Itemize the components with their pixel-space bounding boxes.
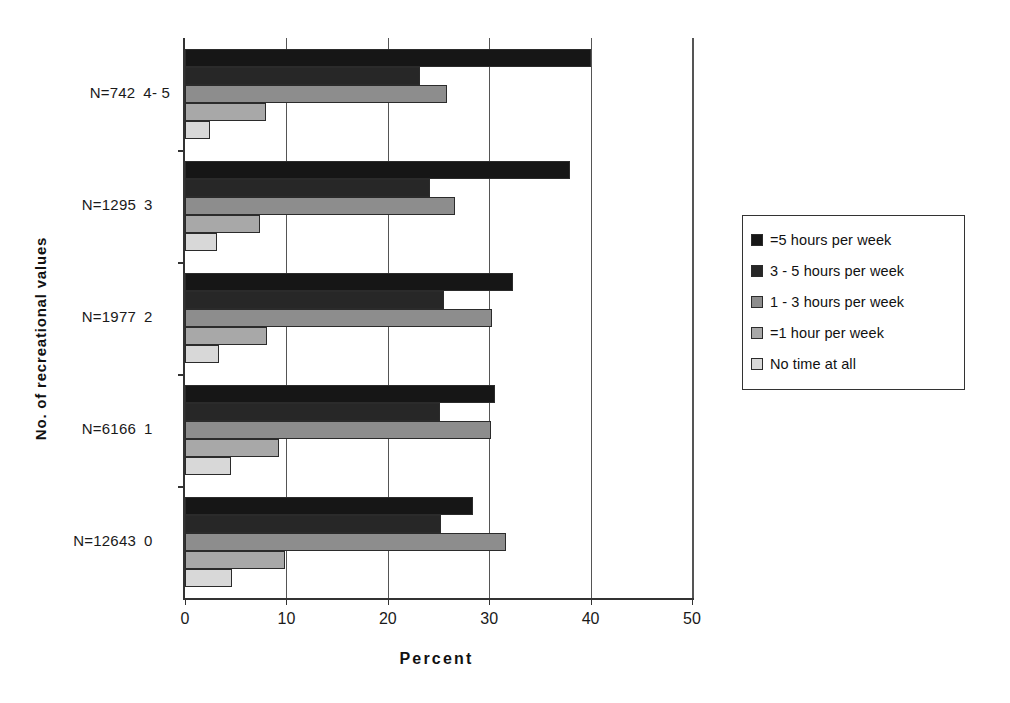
bar <box>185 385 495 403</box>
legend-item: =5 hours per week <box>751 224 958 255</box>
legend-label: =1 hour per week <box>770 325 884 341</box>
y-axis-category-label: N=126430 <box>0 532 170 549</box>
bar <box>185 215 260 233</box>
x-axis-tick-label: 0 <box>155 610 215 628</box>
y-axis-category-label: N=7424- 5 <box>0 84 170 101</box>
bar <box>185 439 279 457</box>
y-axis-category-label: N=12953 <box>0 196 170 213</box>
legend-item: 3 - 5 hours per week <box>751 255 958 286</box>
bar <box>185 569 232 587</box>
y-axis-tick <box>178 262 185 264</box>
bar <box>185 49 591 67</box>
chart-legend: =5 hours per week3 - 5 hours per week1 -… <box>742 215 965 390</box>
legend-swatch-icon <box>751 327 763 339</box>
bar <box>185 161 570 179</box>
bar <box>185 457 231 475</box>
category-sample-size: N=6166 <box>82 420 136 437</box>
x-axis-tick-label: 30 <box>459 610 519 628</box>
legend-swatch-icon <box>751 358 763 370</box>
bar <box>185 179 430 197</box>
y-axis-category-label: N=61661 <box>0 420 170 437</box>
legend-label: No time at all <box>770 356 856 372</box>
bar <box>185 551 285 569</box>
category-sample-size: N=742 <box>90 84 136 101</box>
y-axis-tick <box>178 150 185 152</box>
legend-label: =5 hours per week <box>770 232 891 248</box>
legend-swatch-icon <box>751 296 763 308</box>
bar <box>185 497 473 515</box>
bar <box>185 345 219 363</box>
y-axis-category-label: N=19772 <box>0 308 170 325</box>
bar <box>185 273 513 291</box>
bar-chart-figure: No. of recreational values N=126430N=616… <box>0 0 1010 703</box>
bar <box>185 121 210 139</box>
bar <box>185 515 441 533</box>
bar-group <box>185 497 692 587</box>
y-axis-tick <box>178 374 185 376</box>
legend-item: 1 - 3 hours per week <box>751 286 958 317</box>
bar-group <box>185 385 692 475</box>
bar <box>185 327 267 345</box>
bar <box>185 85 447 103</box>
category-value: 2 <box>144 308 170 325</box>
x-axis-line <box>183 598 694 600</box>
category-sample-size: N=12643 <box>73 532 136 549</box>
category-sample-size: N=1977 <box>82 308 136 325</box>
x-axis-tick-label: 50 <box>662 610 722 628</box>
category-value: 0 <box>144 532 170 549</box>
legend-item: No time at all <box>751 348 958 379</box>
bar <box>185 291 444 309</box>
y-axis-category-labels: N=126430N=61661N=19772N=12953N=7424- 5 <box>0 38 178 598</box>
x-axis-tick-label: 40 <box>561 610 621 628</box>
legend-label: 1 - 3 hours per week <box>770 294 904 310</box>
bar <box>185 403 440 421</box>
category-value: 1 <box>144 420 170 437</box>
bar <box>185 197 455 215</box>
bar <box>185 67 420 85</box>
legend-item: =1 hour per week <box>751 317 958 348</box>
legend-swatch-icon <box>751 234 763 246</box>
plot-area: 01020304050 <box>183 38 694 598</box>
bar <box>185 233 217 251</box>
y-axis-tick <box>178 486 185 488</box>
legend-swatch-icon <box>751 265 763 277</box>
category-value: 4- 5 <box>143 84 170 101</box>
bar <box>185 421 491 439</box>
x-axis-tick-label: 20 <box>358 610 418 628</box>
x-axis-tick-label: 10 <box>256 610 316 628</box>
category-value: 3 <box>144 196 170 213</box>
bar <box>185 103 266 121</box>
bar-group <box>185 49 692 139</box>
plot-inner: 01020304050 <box>185 38 692 598</box>
bar-group <box>185 273 692 363</box>
x-axis-title: Percent <box>183 650 690 668</box>
legend-label: 3 - 5 hours per week <box>770 263 904 279</box>
bar <box>185 309 492 327</box>
bar-group <box>185 161 692 251</box>
bar <box>185 533 506 551</box>
category-sample-size: N=1295 <box>82 196 136 213</box>
